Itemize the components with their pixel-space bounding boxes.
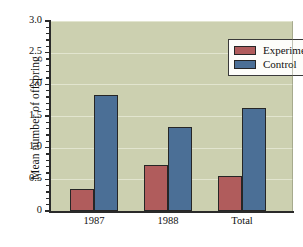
bar-total-experimental [218, 176, 242, 212]
bar-1988-experimental [144, 165, 168, 211]
bar-1988-control [168, 127, 192, 211]
y-tick-label: 3.0 [29, 14, 42, 25]
bar-chart-figure: Mean number of offspring 00.51.01.52.02.… [0, 0, 303, 247]
legend-label-experimental: Experimental [263, 44, 303, 56]
legend-swatch-control [234, 60, 256, 69]
plot-area: Experimental Control [50, 21, 293, 211]
legend-label-control: Control [263, 58, 297, 70]
x-tick-label-total: Total [218, 215, 266, 226]
bar-1987-control [94, 95, 118, 211]
legend-swatch-experimental [234, 46, 256, 55]
bar-total-control [242, 108, 266, 211]
legend: Experimental Control [228, 39, 303, 76]
gridline [50, 84, 293, 85]
y-tick-label: 1.5 [29, 109, 42, 120]
y-tick-label: 0 [37, 204, 42, 215]
x-tick-label-1988: 1988 [144, 215, 192, 226]
bar-1987-experimental [70, 189, 94, 211]
gridline [50, 21, 293, 22]
y-tick-label: 2.5 [29, 45, 42, 56]
y-tick-label: 2.0 [29, 77, 42, 88]
legend-item-control: Control [234, 57, 303, 71]
x-axis-line [49, 211, 294, 213]
y-axis-line [49, 20, 51, 212]
x-tick-label-1987: 1987 [70, 215, 118, 226]
y-tick-label: 1.0 [29, 140, 42, 151]
legend-item-experimental: Experimental [234, 43, 303, 57]
y-tick-label: 0.5 [29, 172, 42, 183]
